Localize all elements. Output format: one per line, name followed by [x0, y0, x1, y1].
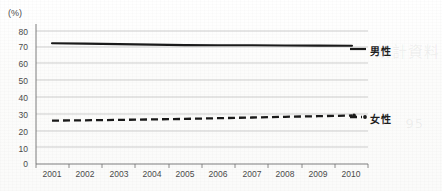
plot-area: [0, 0, 442, 191]
legend-label-male: 男性: [370, 43, 391, 58]
series-line-male: [52, 43, 352, 46]
legend-swatch-female-dot: [363, 115, 367, 119]
x-tick-label: 2010: [331, 169, 371, 179]
x-axis-ticks: [36, 164, 368, 168]
line-chart: (%) 80 70 60 50 40 30 20 10 0: [0, 0, 442, 191]
gridlines: [36, 31, 368, 147]
legend-label-female: 女性: [370, 111, 391, 126]
series-line-female: [52, 116, 352, 121]
